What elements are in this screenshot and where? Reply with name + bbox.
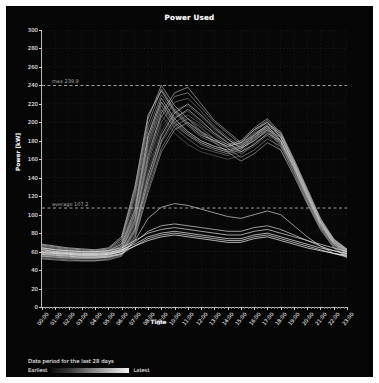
x-minor-tick [284,307,285,309]
y-tick-label: 260 [28,64,38,70]
x-minor-tick [138,307,139,309]
legend-caption: Data period for the last 28 days [28,358,198,364]
y-tick-mark [39,30,42,31]
x-minor-tick [185,307,186,309]
x-minor-tick [145,307,146,309]
x-minor-tick [198,307,199,309]
x-minor-tick [128,307,129,309]
y-tick-mark [39,104,42,105]
x-minor-tick [181,307,182,309]
x-minor-tick [208,307,209,309]
y-tick-label: 120 [28,193,38,199]
x-tick-mark [267,307,268,310]
series-line [42,87,347,254]
x-minor-tick [327,307,328,309]
y-tick-label: 60 [31,249,38,255]
x-minor-tick [191,307,192,309]
x-minor-tick [88,307,89,309]
series-lines [42,30,347,307]
x-minor-tick [317,307,318,309]
y-tick-mark [39,215,42,216]
x-tick-mark [281,307,282,310]
x-tick-mark [175,307,176,310]
x-tick-label: 23:00 [340,311,354,326]
x-minor-tick [277,307,278,309]
y-tick-mark [39,122,42,123]
x-tick-mark [82,307,83,310]
legend-latest-label: Latest [133,367,149,373]
y-tick-mark [39,48,42,49]
x-tick-mark [55,307,56,310]
x-minor-tick [257,307,258,309]
x-axis-label: Time [6,319,311,325]
y-tick-mark [39,85,42,86]
legend-earliest-label: Earliest [28,367,47,373]
y-axis-label: Power [kW] [15,133,21,171]
x-tick-mark [122,307,123,310]
x-minor-tick [231,307,232,309]
x-tick-mark [188,307,189,310]
y-tick-mark [39,270,42,271]
y-tick-mark [39,159,42,160]
page-title: Power Used [6,13,373,22]
x-minor-tick [297,307,298,309]
series-line [42,85,347,250]
x-minor-tick [311,307,312,309]
x-minor-tick [105,307,106,309]
x-tick-mark [294,307,295,310]
x-minor-tick [158,307,159,309]
y-tick-label: 0 [35,304,38,310]
series-line [42,95,347,253]
y-tick-label: 140 [28,175,38,181]
legend-gradient-bar [51,368,129,373]
x-tick-mark [201,307,202,310]
x-minor-tick [340,307,341,309]
x-tick-mark [69,307,70,310]
y-tick-mark [39,233,42,234]
x-minor-tick [271,307,272,309]
x-minor-tick [178,307,179,309]
x-minor-tick [75,307,76,309]
x-minor-tick [291,307,292,309]
x-minor-tick [165,307,166,309]
x-minor-tick [98,307,99,309]
y-tick-mark [39,141,42,142]
y-tick-label: 80 [31,230,38,236]
x-minor-tick [141,307,142,309]
x-minor-tick [344,307,345,309]
x-minor-tick [52,307,53,309]
x-minor-tick [211,307,212,309]
series-line [42,89,347,252]
y-tick-mark [39,196,42,197]
plot-area: max 239.9average 107.2020406080100120140… [41,30,347,308]
x-tick-mark [135,307,136,310]
x-minor-tick [337,307,338,309]
x-minor-tick [264,307,265,309]
x-minor-tick [301,307,302,309]
x-tick-mark [161,307,162,310]
x-minor-tick [85,307,86,309]
x-tick-mark [108,307,109,310]
x-minor-tick [224,307,225,309]
series-line [42,228,347,252]
chart-canvas: Power Used Power [kW] max 239.9average 1… [6,6,373,377]
y-tick-label: 280 [28,45,38,51]
x-minor-tick [324,307,325,309]
x-tick-mark [148,307,149,310]
x-minor-tick [65,307,66,309]
x-minor-tick [204,307,205,309]
x-minor-tick [45,307,46,309]
x-tick-label: 22:00 [327,311,341,326]
legend-footer: Data period for the last 28 days Earlies… [28,358,198,373]
x-minor-tick [151,307,152,309]
x-tick-mark [320,307,321,310]
x-minor-tick [62,307,63,309]
y-tick-label: 240 [28,82,38,88]
x-minor-tick [330,307,331,309]
x-minor-tick [218,307,219,309]
y-tick-mark [39,67,42,68]
y-tick-label: 180 [28,138,38,144]
y-tick-label: 200 [28,119,38,125]
y-tick-mark [39,252,42,253]
x-minor-tick [251,307,252,309]
